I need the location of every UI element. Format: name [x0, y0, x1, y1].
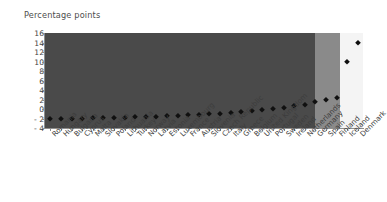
- y-axis-tick-label: 14: [2, 38, 44, 47]
- y-axis-tick-label: 2: [2, 95, 44, 104]
- y-axis-tick-label: 8: [2, 67, 44, 76]
- y-axis-tick-label: 0: [2, 105, 44, 114]
- y-axis-tick-mark: [42, 109, 45, 110]
- y-axis-tick-label: 6: [2, 76, 44, 85]
- y-axis-tick-label: 16: [2, 29, 44, 38]
- y-axis-tick-label: 4: [2, 86, 44, 95]
- y-axis-tick-mark: [42, 43, 45, 44]
- y-axis-tick-label: - 2: [2, 114, 44, 123]
- y-axis-tick-labels: - 4- 20246810121416: [0, 0, 44, 202]
- y-axis-tick-mark: [42, 62, 45, 63]
- y-axis-tick-mark: [42, 119, 45, 120]
- y-axis-tick-label: 10: [2, 57, 44, 66]
- y-axis-tick-mark: [42, 128, 45, 129]
- y-axis-tick-label: 12: [2, 48, 44, 57]
- y-axis-tick-mark: [42, 33, 45, 34]
- y-axis-tick-mark: [42, 81, 45, 82]
- y-axis-tick-label: - 4: [2, 124, 44, 133]
- y-axis-tick-mark: [42, 90, 45, 91]
- y-axis-tick-mark: [42, 71, 45, 72]
- y-axis-tick-mark: [42, 100, 45, 101]
- y-axis-tick-mark: [42, 52, 45, 53]
